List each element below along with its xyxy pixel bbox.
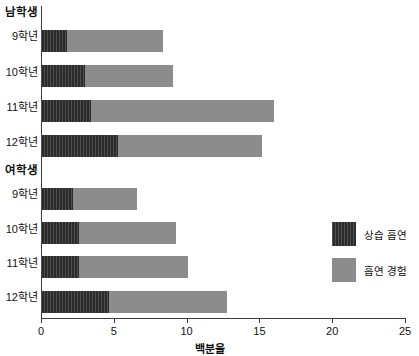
bar-segment-experience bbox=[91, 100, 274, 122]
legend-swatch-habitual-icon bbox=[332, 222, 356, 246]
group-label-female: 여학생 bbox=[0, 164, 38, 176]
x-tick-label-5: 5 bbox=[111, 325, 117, 337]
category-label-female-grade10: 10학년 bbox=[0, 223, 38, 235]
category-labels-column: 남학생 9학년 10학년 11학년 12학년 여학생 9학년 10학년 11학년… bbox=[0, 0, 38, 356]
bar-segment-experience bbox=[118, 135, 262, 157]
category-label-female-grade9: 9학년 bbox=[0, 188, 38, 200]
stacked-bar-chart: 남학생 9학년 10학년 11학년 12학년 여학생 9학년 10학년 11학년… bbox=[0, 0, 419, 356]
bar-segment-experience bbox=[79, 222, 177, 244]
bar-segment-experience bbox=[67, 30, 163, 52]
bar-segment-habitual bbox=[41, 100, 91, 122]
bar-여학생-12학년 bbox=[41, 291, 227, 313]
bar-segment-habitual bbox=[41, 188, 73, 210]
x-axis-line bbox=[41, 318, 406, 319]
bar-여학생-10학년 bbox=[41, 222, 176, 244]
x-tick-20 bbox=[332, 318, 333, 323]
legend-label-experience: 흡연 경험 bbox=[364, 263, 407, 278]
x-tick-25 bbox=[405, 318, 406, 323]
bar-segment-experience bbox=[85, 65, 174, 87]
legend: 상습 흡연 흡연 경험 bbox=[332, 222, 407, 294]
bar-segment-habitual bbox=[41, 256, 79, 278]
legend-label-habitual: 상습 흡연 bbox=[364, 227, 407, 242]
bar-남학생-12학년 bbox=[41, 135, 262, 157]
bar-여학생-11학년 bbox=[41, 256, 188, 278]
bar-남학생-10학년 bbox=[41, 65, 173, 87]
category-label-male-grade10: 10학년 bbox=[0, 66, 38, 78]
group-label-male: 남학생 bbox=[0, 6, 38, 18]
bar-segment-habitual bbox=[41, 30, 67, 52]
x-tick-label-0: 0 bbox=[38, 325, 44, 337]
x-tick-0 bbox=[41, 318, 42, 323]
category-label-male-grade9: 9학년 bbox=[0, 30, 38, 42]
category-label-male-grade12: 12학년 bbox=[0, 136, 38, 148]
x-tick-label-15: 15 bbox=[253, 325, 265, 337]
bar-segment-experience bbox=[109, 291, 227, 313]
category-label-female-grade12: 12학년 bbox=[0, 291, 38, 303]
bar-여학생-9학년 bbox=[41, 188, 137, 210]
x-tick-15 bbox=[259, 318, 260, 323]
category-label-male-grade11: 11학년 bbox=[0, 101, 38, 113]
legend-item-habitual: 상습 흡연 bbox=[332, 222, 407, 246]
bar-segment-habitual bbox=[41, 291, 109, 313]
bar-남학생-9학년 bbox=[41, 30, 163, 52]
legend-item-experience: 흡연 경험 bbox=[332, 258, 407, 282]
legend-swatch-experience-icon bbox=[332, 258, 356, 282]
x-tick-5 bbox=[114, 318, 115, 323]
x-tick-label-25: 25 bbox=[399, 325, 411, 337]
bar-segment-habitual bbox=[41, 65, 85, 87]
x-axis-title: 백분율 bbox=[0, 340, 419, 356]
bar-남학생-11학년 bbox=[41, 100, 274, 122]
category-label-female-grade11: 11학년 bbox=[0, 257, 38, 269]
x-tick-10 bbox=[187, 318, 188, 323]
bar-segment-experience bbox=[73, 188, 137, 210]
x-tick-label-10: 10 bbox=[180, 325, 192, 337]
bar-segment-experience bbox=[79, 256, 188, 278]
bar-segment-habitual bbox=[41, 135, 118, 157]
bar-segment-habitual bbox=[41, 222, 79, 244]
x-tick-label-20: 20 bbox=[326, 325, 338, 337]
